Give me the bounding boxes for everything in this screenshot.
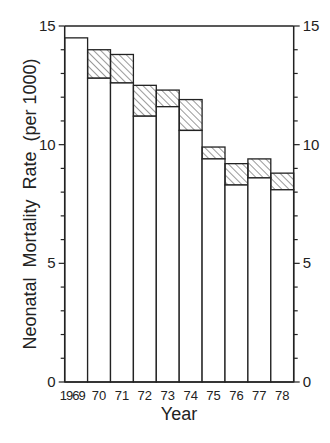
bar-hatched-segment bbox=[225, 164, 248, 185]
y-tick-label-right: 5 bbox=[303, 254, 311, 271]
x-axis: 1969707172737475767778 bbox=[60, 388, 290, 403]
bar-73 bbox=[156, 90, 179, 382]
bar-white-segment bbox=[156, 107, 179, 382]
y-axis-title: Neonatal Mortality Rate (per 1000) bbox=[20, 58, 40, 349]
bar-1969 bbox=[65, 38, 88, 382]
bar-78 bbox=[271, 173, 294, 382]
bar-hatched-segment bbox=[202, 147, 225, 159]
bar-white-segment bbox=[202, 159, 225, 382]
x-tick-label: 76 bbox=[229, 388, 243, 403]
y-tick-label: 10 bbox=[39, 136, 56, 153]
right-y-axis: 051015 bbox=[294, 17, 320, 390]
bar-hatched-segment bbox=[133, 85, 156, 116]
bar-71 bbox=[111, 54, 134, 382]
y-tick-label: 0 bbox=[47, 373, 55, 390]
y-tick-label: 5 bbox=[47, 254, 55, 271]
bar-76 bbox=[225, 164, 248, 382]
bar-white-segment bbox=[179, 130, 202, 382]
chart-canvas: 051015 051015 1969707172737475767778 Yea… bbox=[0, 0, 330, 443]
bar-white-segment bbox=[225, 185, 248, 382]
bar-hatched-segment bbox=[179, 100, 202, 131]
x-tick-label: 75 bbox=[206, 388, 220, 403]
x-tick-label: 78 bbox=[275, 388, 289, 403]
neonatal-mortality-chart: 051015 051015 1969707172737475767778 Yea… bbox=[0, 0, 330, 443]
x-tick-label: 74 bbox=[183, 388, 197, 403]
x-tick-label: 1969 bbox=[60, 388, 86, 403]
bar-77 bbox=[248, 159, 271, 382]
bar-hatched-segment bbox=[248, 159, 271, 178]
bars-group bbox=[65, 38, 294, 382]
y-tick-label: 15 bbox=[39, 17, 56, 34]
bar-75 bbox=[202, 147, 225, 382]
bar-white-segment bbox=[88, 78, 111, 382]
bar-white-segment bbox=[133, 116, 156, 382]
x-tick-label: 73 bbox=[161, 388, 175, 403]
y-tick-label-right: 10 bbox=[303, 136, 320, 153]
y-tick-label-right: 0 bbox=[303, 373, 311, 390]
bar-white-segment bbox=[111, 83, 134, 382]
bar-74 bbox=[179, 100, 202, 382]
x-tick-label: 71 bbox=[115, 388, 129, 403]
bar-70 bbox=[88, 50, 111, 382]
bar-white-segment bbox=[248, 178, 271, 382]
bar-72 bbox=[133, 85, 156, 382]
x-axis-title: Year bbox=[161, 404, 197, 424]
bar-hatched-segment bbox=[111, 54, 134, 82]
y-tick-label-right: 15 bbox=[303, 17, 320, 34]
x-tick-label: 77 bbox=[252, 388, 266, 403]
bar-hatched-segment bbox=[156, 90, 179, 107]
bar-hatched-segment bbox=[271, 173, 294, 190]
bar-hatched-segment bbox=[88, 50, 111, 78]
left-y-axis: 051015 bbox=[39, 17, 65, 390]
bar-white-segment bbox=[65, 38, 88, 382]
x-tick-label: 72 bbox=[138, 388, 152, 403]
bar-white-segment bbox=[271, 190, 294, 382]
x-tick-label: 70 bbox=[92, 388, 106, 403]
